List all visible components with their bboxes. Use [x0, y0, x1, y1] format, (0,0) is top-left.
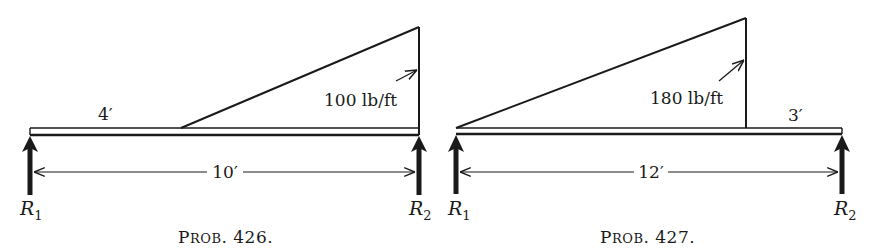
load-intensity-label: 180 lb/ft: [650, 88, 723, 108]
span-label: 10′: [212, 162, 238, 182]
distributed-load-triangle: [181, 27, 419, 135]
reaction-arrow-r1: [22, 136, 38, 195]
beam-diagrams: 100 lb/ft 4′ 10′ R1 R2 PROB. 426.: [0, 0, 875, 251]
reaction-arrow-r2: [411, 136, 427, 195]
figure-caption: PROB. 426.: [178, 227, 273, 247]
problem-426: 100 lb/ft 4′ 10′ R1 R2 PROB. 426.: [19, 27, 432, 247]
load-slope-line: [456, 18, 746, 128]
load-slope-line: [181, 27, 419, 128]
reaction-label-r2: R2: [833, 197, 857, 223]
reaction-label-r1: R1: [19, 197, 43, 223]
span-dimension: 10′: [34, 162, 415, 182]
figure-caption: PROB. 427.: [600, 227, 695, 247]
reaction-label-r2: R2: [408, 197, 432, 223]
reaction-arrow-r1: [448, 135, 464, 194]
span-label: 12′: [638, 162, 664, 182]
problem-427: 180 lb/ft 3′ 12′ R1 R2 PROB. 427.: [447, 18, 857, 247]
load-intensity-label: 100 lb/ft: [324, 90, 397, 110]
span-dimension: 12′: [460, 162, 838, 182]
beam: [30, 128, 419, 135]
load-leader-arrow: [396, 70, 417, 81]
offset-dimension-label: 3′: [788, 105, 803, 125]
beam: [456, 128, 842, 134]
reaction-label-r1: R1: [447, 197, 471, 223]
distributed-load-triangle: [456, 18, 746, 128]
offset-dimension-label: 4′: [98, 104, 113, 124]
load-leader-arrow: [719, 60, 744, 81]
reaction-arrow-r2: [834, 135, 850, 194]
